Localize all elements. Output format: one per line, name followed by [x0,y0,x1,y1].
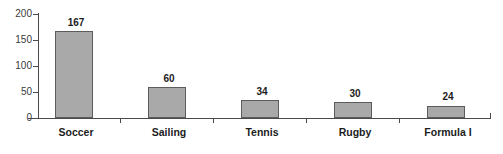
y-axis-tick-label-wrap: 50 [0,87,32,97]
x-axis-tick [120,119,121,123]
x-axis-line [28,118,491,119]
x-axis-tick [213,119,214,123]
y-axis-tick-label: 100 [15,61,32,71]
plot-area [38,14,493,118]
x-axis-tick [306,119,307,123]
bar-rugby [334,102,372,118]
bar-chart: 0 50 100 150 200 167 60 34 30 24 Soccer [0,0,503,154]
y-axis-tick-label-wrap: 100 [0,61,32,71]
bar-value-label: 24 [412,91,484,102]
bar-tennis [241,100,279,118]
y-axis-tick-label-wrap: 200 [0,9,32,19]
x-axis-category-label-sailing: Sailing [130,126,208,138]
bar-value-label: 34 [226,86,298,97]
y-axis-tick-label-wrap: 150 [0,35,32,45]
x-axis-category-label-tennis: Tennis [223,126,301,138]
bar-value-label: 30 [319,88,391,99]
bar-sailing [148,87,186,118]
x-axis-category-label-soccer: Soccer [37,126,115,138]
bar-value-label: 60 [133,73,205,84]
y-axis-tick-label: 200 [15,9,32,19]
y-axis-tick-label: 50 [21,87,32,97]
bar-value-label: 167 [40,17,112,28]
x-axis-category-label-rugby: Rugby [316,126,394,138]
bar-soccer [55,31,93,118]
y-axis-tick-label: 150 [15,35,32,45]
x-axis-category-label-formula-i: Formula I [409,126,487,138]
bar-formula-i [427,106,465,119]
x-axis-tick [399,119,400,123]
